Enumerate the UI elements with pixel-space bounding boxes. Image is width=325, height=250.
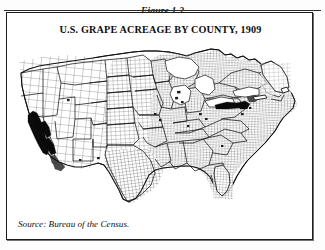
figure-plate: U.S. GRAPE ACREAGE BY COUNTY, 1909 Outli… [6,12,313,240]
county-texture-west [13,49,113,179]
map-title: U.S. GRAPE ACREAGE BY COUNTY, 1909 [7,24,313,36]
us-county-map-svg: Outline map of the contiguous United Sta… [9,39,312,209]
source-note: Source: Bureau of the Census. [18,219,129,230]
figure-root: Figure 1.2 U.S. GRAPE ACREAGE BY COUNTY,… [0,0,325,250]
figure-divider-rule [4,10,321,11]
us-county-map: Outline map of the contiguous United Sta… [9,39,312,209]
florida-detail [213,165,233,199]
